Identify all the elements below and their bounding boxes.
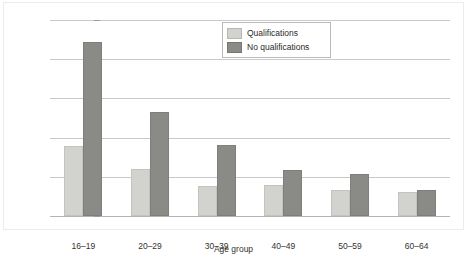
bar-16-19-series-0 (64, 146, 83, 216)
legend-label-no-qualifications: No qualifications (247, 43, 309, 52)
y-tick-mark-50 (94, 20, 100, 21)
bar-30-39-series-1 (217, 145, 236, 216)
y-tick-mark-0 (94, 216, 100, 217)
bar-20-29-series-0 (131, 169, 150, 216)
gridline-20 (50, 138, 450, 139)
x-axis-title: Age group (0, 244, 467, 254)
gridline-0 (50, 216, 450, 217)
gridline-40 (50, 59, 450, 60)
bar-50-59-series-0 (331, 190, 350, 216)
bar-60-64-series-1 (417, 190, 436, 216)
chart-legend: Qualifications No qualifications (222, 22, 331, 58)
bar-16-19-series-1 (83, 42, 102, 216)
bar-40-49-series-1 (283, 170, 302, 216)
legend-swatch-qualifications (227, 28, 242, 39)
bar-40-49-series-0 (264, 185, 283, 216)
bar-30-39-series-0 (198, 186, 217, 216)
legend-label-qualifications: Qualifications (247, 29, 298, 38)
gridline-30 (50, 98, 450, 99)
bar-chart-figure: Percentage of men unemployed 01020304050… (0, 0, 467, 262)
bar-50-59-series-1 (350, 174, 369, 216)
legend-swatch-no-qualifications (227, 42, 242, 53)
legend-item-no-qualifications: No qualifications (227, 40, 326, 54)
bar-60-64-series-0 (398, 192, 417, 216)
bar-20-29-series-1 (150, 112, 169, 216)
gridline-10 (50, 177, 450, 178)
legend-item-qualifications: Qualifications (227, 26, 326, 40)
gridline-50 (50, 20, 450, 21)
